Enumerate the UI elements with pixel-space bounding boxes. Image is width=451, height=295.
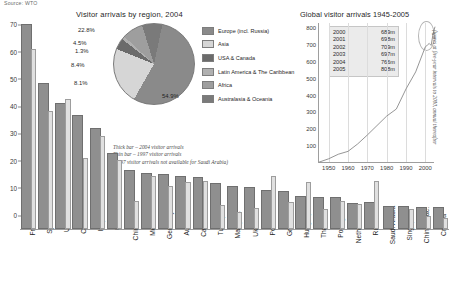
line-chart-x-tick: 1960 — [341, 165, 354, 171]
bar-chart-y-tick: 60 — [10, 48, 17, 55]
line-chart-plot: 2000689m2001698m2002709m2003697m2004766m… — [318, 23, 434, 163]
legend-swatch — [202, 40, 214, 48]
legend-label: Australasia & Oceania — [218, 96, 272, 102]
line-chart-series — [319, 23, 435, 163]
legend-swatch — [202, 27, 214, 35]
pie-legend-item[interactable]: Asia — [202, 38, 286, 52]
bar-1997[interactable] — [237, 212, 242, 229]
bar-chart-y-tick: 0 — [13, 212, 17, 219]
pie-percentage-label: 54.9% — [162, 93, 179, 99]
legend-label: Asia — [218, 41, 229, 47]
bar-1997[interactable] — [220, 205, 225, 230]
infographic-root: Source: WTO 010203040506070 FranceSpainU… — [0, 0, 451, 295]
pie-percentage-label: 8.4% — [71, 62, 84, 68]
bar-chart-y-tick: 70 — [10, 21, 17, 28]
bar-1997[interactable] — [168, 186, 173, 229]
pie-percentage-label: 8.1% — [74, 80, 87, 86]
bar-1997[interactable] — [65, 99, 70, 229]
bar-chart-y-tick: 30 — [10, 130, 17, 137]
pie-percentage-label: 4.5% — [73, 40, 86, 46]
bar-1997[interactable] — [254, 208, 259, 229]
legend-label: USA & Canada — [218, 55, 255, 61]
pie-legend-item[interactable]: Europe (incl. Russia) — [202, 24, 286, 38]
pie-legend-item[interactable]: Latin America & The Caribbean — [202, 65, 286, 79]
note-line-1: Thick bar – 2004 visitor arrivals — [113, 144, 228, 151]
bar-1997[interactable] — [271, 176, 276, 229]
bar-group[interactable] — [37, 22, 54, 229]
pie-chart-title: Visitor arrivals by region, 2004 — [76, 10, 183, 19]
bar-1997[interactable] — [134, 201, 139, 229]
legend-swatch — [202, 81, 214, 89]
pie-percentage-label: 1.3% — [75, 48, 88, 54]
bar-1997[interactable] — [117, 160, 122, 229]
bar-chart-note: Thick bar – 2004 visitor arrivals Thin b… — [113, 144, 228, 166]
bar-1997[interactable] — [151, 176, 156, 229]
bar-1997[interactable] — [340, 201, 345, 229]
bar-group[interactable] — [54, 22, 71, 229]
pie-legend-item[interactable]: Australasia & Oceania — [202, 92, 286, 106]
bar-1997[interactable] — [374, 181, 379, 229]
note-line-3: (1997 visitor arrivals not available for… — [113, 159, 228, 166]
bar-1997[interactable] — [31, 49, 36, 229]
bar-2004[interactable] — [383, 206, 394, 229]
line-chart-y-tick: 600 — [306, 59, 316, 65]
line-chart-x-tick: 2000 — [419, 165, 432, 171]
bar-1997[interactable] — [83, 158, 88, 229]
line-chart-x-tick: 1970 — [361, 165, 374, 171]
bar-1997[interactable] — [185, 182, 190, 229]
pie-chart: Visitor arrivals by region, 2004 Europe … — [70, 10, 285, 122]
legend-swatch — [202, 54, 214, 62]
line-chart-y-tick: 300 — [306, 109, 316, 115]
pie-percentage-label: 22.8% — [78, 27, 95, 33]
line-chart-y-tick: 200 — [306, 126, 316, 132]
bar-1997[interactable] — [357, 204, 362, 229]
bar-chart-y-tick: 50 — [10, 75, 17, 82]
line-chart-side-label: figures at five-year intervals to 2000, … — [432, 30, 438, 144]
bar-1997[interactable] — [323, 209, 328, 229]
legend-label: Latin America & The Caribbean — [218, 69, 294, 75]
legend-swatch — [202, 95, 214, 103]
note-line-2: Thin bar – 1997 visitor arrivals — [113, 151, 228, 158]
bar-1997[interactable] — [409, 209, 414, 229]
line-chart-y-tick: 400 — [306, 93, 316, 99]
bar-chart-y-axis: 010203040506070 — [0, 8, 20, 216]
line-chart-y-tick: 100 — [306, 143, 316, 149]
bar-1997[interactable] — [288, 202, 293, 230]
legend-label: Africa — [218, 82, 232, 88]
source-label: Source: WTO — [4, 0, 38, 6]
bar-chart-y-tick: 10 — [10, 184, 17, 191]
pie-legend: Europe (incl. Russia)AsiaUSA & CanadaLat… — [202, 24, 286, 106]
line-chart-x-tick: 1950 — [322, 165, 335, 171]
bar-chart-y-tick: 20 — [10, 157, 17, 164]
line-chart-x-tick: 1990 — [399, 165, 412, 171]
bar-chart-y-tick: 40 — [10, 103, 17, 110]
pie-legend-item[interactable]: Africa — [202, 78, 286, 92]
legend-label: Europe (incl. Russia) — [218, 28, 269, 34]
bar-1997[interactable] — [48, 111, 53, 229]
legend-swatch — [202, 68, 214, 76]
line-chart-y-tick: 800 — [306, 25, 316, 31]
bar-1997[interactable] — [100, 136, 105, 229]
line-chart-y-tick: 500 — [306, 76, 316, 82]
line-chart: Global visitor arrivals 1945-2005 200068… — [292, 10, 451, 190]
line-chart-y-tick: 700 — [306, 42, 316, 48]
bar-1997[interactable] — [306, 182, 311, 229]
pie-graphic — [113, 23, 195, 105]
bar-1997[interactable] — [443, 218, 448, 229]
bar-1997[interactable] — [203, 181, 208, 229]
pie-legend-item[interactable]: USA & Canada — [202, 51, 286, 65]
line-chart-x-tick: 1980 — [380, 165, 393, 171]
line-chart-title: Global visitor arrivals 1945-2005 — [300, 10, 409, 19]
bar-1997[interactable] — [426, 216, 431, 229]
bar-group[interactable] — [20, 22, 37, 229]
